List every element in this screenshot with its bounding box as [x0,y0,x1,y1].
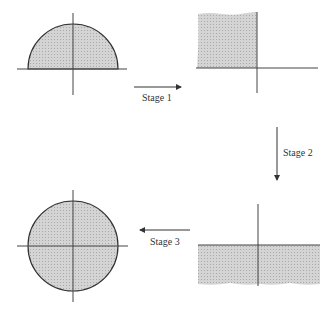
arrow-stage-2: Stage 2 [277,127,313,180]
panel-upper-half-disk [17,13,127,95]
panel-lower-half-plane [198,204,320,286]
lower-half-region [198,245,320,285]
stage-3-label: Stage 3 [150,236,180,247]
stage-2-label: Stage 2 [283,147,313,158]
arrow-stage-1: Stage 1 [134,87,181,103]
panel-second-quadrant [196,12,318,93]
quadrant-region [197,12,257,68]
panel-unit-disk [17,190,128,302]
arrow-stage-3: Stage 3 [140,230,190,247]
stage-1-label: Stage 1 [142,92,172,103]
conformal-mapping-diagram: Stage 1 Stage 2 Stage 3 [0,0,336,314]
